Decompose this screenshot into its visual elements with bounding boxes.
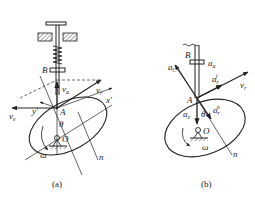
guide-left bbox=[38, 33, 52, 41]
label-omega: ω bbox=[40, 150, 46, 160]
label-theta: θ bbox=[201, 109, 206, 119]
vector-art bbox=[197, 85, 222, 98]
omega-arrow bbox=[182, 128, 190, 146]
label-ve: ve bbox=[9, 111, 16, 122]
label-ae: ae bbox=[183, 109, 191, 120]
label-arn: arn bbox=[213, 104, 221, 116]
cam-follower-diagram: B n x' y' ve va vr A θ bbox=[0, 0, 255, 206]
label-vr: vr bbox=[240, 80, 247, 91]
label-omega: ω bbox=[202, 142, 208, 152]
collar-b bbox=[190, 60, 204, 64]
label-O: O bbox=[203, 126, 210, 136]
label-B: B bbox=[185, 50, 191, 60]
label-n: n bbox=[99, 152, 104, 162]
label-n: n bbox=[233, 149, 238, 159]
label-B: B bbox=[42, 65, 48, 75]
follower-cap bbox=[46, 22, 66, 25]
label-x-prime: x' bbox=[105, 95, 113, 105]
label-theta: θ bbox=[59, 119, 64, 129]
label-A: A bbox=[186, 95, 193, 105]
label-A: A bbox=[59, 107, 66, 117]
collar-b bbox=[50, 68, 65, 72]
caption-b: (b) bbox=[201, 179, 212, 189]
label-O: O bbox=[62, 134, 69, 144]
guide-right bbox=[63, 33, 77, 41]
label-va: va bbox=[62, 84, 69, 95]
label-aC: aC bbox=[168, 62, 178, 73]
caption-a: (a) bbox=[52, 179, 62, 189]
spring bbox=[53, 46, 62, 64]
figure-a: B n x' y' ve va vr A θ bbox=[9, 22, 116, 189]
figure-b: B aa n aC vr art arn ae θ A O ω bbox=[156, 44, 253, 189]
vector-aC bbox=[175, 65, 197, 98]
label-aa: aa bbox=[208, 58, 216, 69]
label-vr: vr bbox=[96, 85, 103, 96]
y-prime-axis bbox=[40, 102, 57, 108]
label-art: art bbox=[212, 73, 220, 85]
